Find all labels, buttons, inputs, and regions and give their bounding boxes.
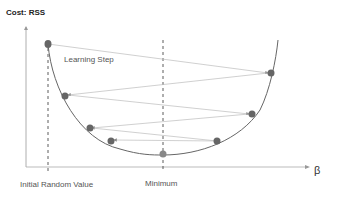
gradient-descent-diagram [0, 0, 337, 207]
learning-step-arrows [48, 44, 268, 141]
descent-points [45, 40, 275, 158]
